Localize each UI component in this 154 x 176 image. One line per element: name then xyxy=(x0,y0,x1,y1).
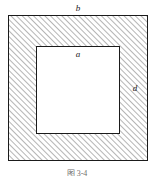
dimension-label-d: d xyxy=(133,84,138,93)
inner-square-fill xyxy=(36,46,120,134)
figure-container: b a d 图 3-4 xyxy=(0,0,154,176)
dimension-label-b: b xyxy=(76,4,81,13)
figure-drawing xyxy=(0,0,154,176)
figure-caption: 图 3-4 xyxy=(67,169,88,176)
dimension-label-a: a xyxy=(76,50,81,59)
